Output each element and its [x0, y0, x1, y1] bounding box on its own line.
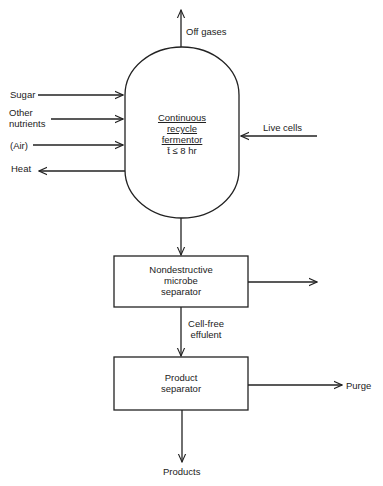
purge-label: Purge: [346, 380, 371, 391]
fermentor-title-line2: recycle: [142, 123, 222, 134]
off-gases-label: Off gases: [186, 26, 227, 37]
live-cells-label: Live cells: [263, 122, 302, 133]
sugar-label: Sugar: [10, 89, 35, 100]
microbe-separator-line3: separator: [114, 286, 248, 297]
effluent-label-line2: effulent: [184, 329, 228, 340]
fermentor-title-line1: Continuous: [142, 112, 222, 123]
products-label: Products: [163, 466, 201, 477]
heat-label: Heat: [11, 163, 31, 174]
product-separator-line2: separator: [114, 383, 248, 394]
air-label: (Air): [10, 140, 28, 151]
flow-diagram-canvas: [0, 0, 383, 486]
product-separator-line1: Product: [114, 372, 248, 383]
effluent-label-line1: Cell-free: [184, 318, 228, 329]
other-nutrients-label-2: nutrients: [9, 118, 45, 129]
residence-time-label: t̄ ≤ 8 hr: [142, 145, 222, 156]
other-nutrients-label-1: Other: [9, 107, 33, 118]
fermentor-title-line3: fermentor: [142, 134, 222, 145]
microbe-separator-line1: Nondestructive: [114, 264, 248, 275]
microbe-separator-line2: microbe: [114, 275, 248, 286]
